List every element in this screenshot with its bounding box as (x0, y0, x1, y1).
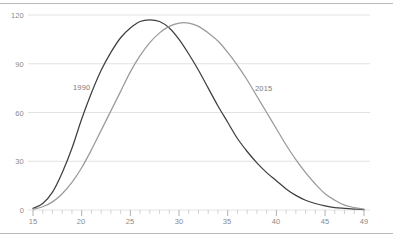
series-line-1990 (33, 20, 364, 210)
series-label-1990: 1990 (73, 83, 91, 92)
series-label-2015: 2015 (255, 84, 273, 93)
y-tick-label-30: 30 (2, 157, 24, 166)
y-tick-label-90: 90 (2, 60, 24, 69)
gridlines-group (28, 15, 370, 210)
x-tick-label-15: 15 (21, 217, 45, 226)
x-tick-label-30: 30 (167, 217, 191, 226)
x-tick-label-20: 20 (69, 217, 93, 226)
y-tick-label-0: 0 (2, 206, 24, 215)
chart-container: 120 90 60 30 0 15 20 25 30 35 40 45 49 1… (0, 0, 393, 242)
x-tick-label-25: 25 (118, 217, 142, 226)
series-paths (33, 20, 364, 210)
x-tick-label-40: 40 (264, 217, 288, 226)
y-tick-label-60: 60 (2, 109, 24, 118)
line-chart-plot (0, 0, 393, 242)
y-tick-label-120: 120 (2, 11, 24, 20)
x-axis-ticks (33, 210, 364, 216)
x-tick-label-35: 35 (215, 217, 239, 226)
x-tick-label-45: 45 (313, 217, 337, 226)
x-tick-label-49: 49 (352, 217, 376, 226)
